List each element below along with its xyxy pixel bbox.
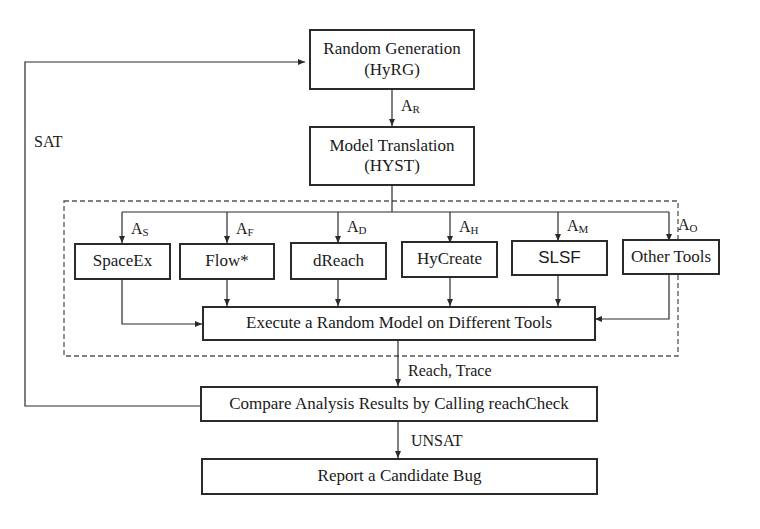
model-translation-box: Model Translation (HYST): [309, 126, 475, 186]
execute-box: Execute a Random Model on Different Tool…: [202, 306, 596, 341]
edge-label-am: AM: [567, 217, 588, 235]
edge-label-as: AS: [131, 220, 149, 238]
tool-box-other-tools: Other Tools: [622, 239, 720, 275]
edge-label-ao: AO: [678, 216, 698, 234]
tool-box-hycreate: HyCreate: [401, 241, 498, 278]
edge-label-ad: AD: [347, 218, 367, 236]
random-generation-title: Random Generation: [323, 39, 460, 59]
tool-box-flowstar: Flow*: [179, 243, 275, 280]
edge-label-sat: SAT: [34, 133, 62, 151]
random-generation-box: Random Generation (HyRG): [309, 29, 475, 90]
edge-label-ar: AR: [401, 97, 420, 115]
tool-box-dreach: dReach: [290, 242, 387, 280]
edge-label-af: AF: [236, 220, 254, 238]
model-translation-title: Model Translation: [329, 136, 454, 156]
tool-box-slsf: SLSF: [511, 240, 608, 276]
random-generation-subtitle: (HyRG): [364, 60, 420, 80]
report-box: Report a Candidate Bug: [201, 458, 598, 495]
edge-label-ah: AH: [459, 218, 479, 236]
model-translation-subtitle: (HYST): [364, 156, 420, 176]
tool-box-spaceex: SpaceEx: [74, 243, 171, 280]
compare-box: Compare Analysis Results by Calling reac…: [200, 386, 598, 422]
edge-label-reach-trace: Reach, Trace: [408, 362, 492, 380]
edge-label-unsat: UNSAT: [411, 432, 463, 450]
